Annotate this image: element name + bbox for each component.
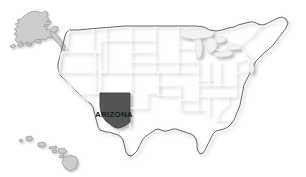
border-nm-tx xyxy=(130,93,147,108)
border-ca-east xyxy=(62,76,88,102)
lake-huron xyxy=(206,38,217,53)
hawaii-molokai xyxy=(49,146,57,149)
alaska-aleutian-1 xyxy=(10,44,16,48)
alaska-aleutian-2 xyxy=(17,43,24,47)
hawaii-maui xyxy=(58,148,67,154)
great-lakes xyxy=(180,29,241,58)
lake-erie xyxy=(214,51,233,57)
chesapeake-bay xyxy=(249,62,254,74)
alaska-inset xyxy=(10,11,67,51)
contiguous-us xyxy=(58,17,288,156)
alaska-shape xyxy=(14,11,58,44)
hawaii-lanai xyxy=(52,150,57,153)
alaska-aleutian-3 xyxy=(26,43,32,46)
hawaii-inset xyxy=(19,136,78,171)
border-id-mt-wy xyxy=(93,40,106,52)
us-map-figure: ARIZONA xyxy=(0,0,306,177)
border-ca-nv-south xyxy=(78,93,95,94)
hawaii-niihau xyxy=(19,139,23,142)
border-ga-fl xyxy=(216,110,220,120)
us-map-svg: ARIZONA xyxy=(0,0,306,177)
border-nh-me xyxy=(252,26,262,36)
us-landmass-outline xyxy=(58,17,288,156)
alaska-panhandle xyxy=(50,31,67,51)
hawaii-kahoolawe xyxy=(59,155,64,158)
border-ut-az xyxy=(95,72,100,93)
state-label-arizona: ARIZONA xyxy=(95,110,133,119)
hawaii-oahu xyxy=(38,142,46,147)
georgian-bay xyxy=(216,36,226,43)
hawaii-big-island xyxy=(62,155,78,171)
lake-superior xyxy=(180,29,214,39)
border-la-ar-ms xyxy=(180,100,203,110)
border-wy-ut xyxy=(100,40,106,72)
lake-michigan xyxy=(195,39,202,58)
border-ny-vt-nh xyxy=(240,36,252,45)
border-tx-nm-ok xyxy=(147,93,158,108)
border-pa-wv xyxy=(236,58,247,62)
hawaii-kauai xyxy=(26,136,33,141)
state-borders xyxy=(59,26,262,128)
border-sc-ga xyxy=(220,96,228,110)
lake-ontario xyxy=(228,45,241,50)
border-ar-ok-la xyxy=(180,85,198,100)
